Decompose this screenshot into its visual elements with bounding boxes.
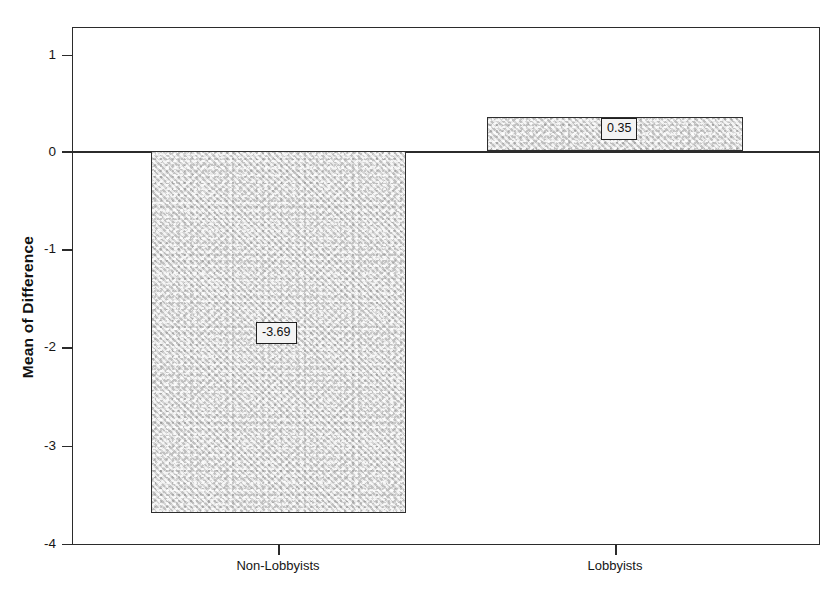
y-tick-mark	[62, 151, 73, 153]
y-tick-label: -2	[0, 339, 56, 354]
y-tick-mark	[62, 249, 73, 251]
x-tick-mark	[615, 545, 617, 555]
bar-chart: Mean of Difference 1 0 -1 -2 -3 -4 -3.69…	[0, 0, 839, 592]
bar-value-label-lobbyists: 0.35	[601, 118, 637, 140]
x-tick-mark	[278, 545, 280, 555]
y-tick-label: 0	[0, 144, 56, 159]
y-tick-mark	[62, 544, 73, 546]
y-tick-mark	[62, 446, 73, 448]
x-tick-label-non-lobbyists: Non-Lobbyists	[158, 558, 398, 573]
y-tick-label: -4	[0, 536, 56, 551]
y-tick-label: -3	[0, 438, 56, 453]
bar-value-label-non-lobbyists: -3.69	[256, 322, 297, 344]
y-axis-title: Mean of Difference	[19, 197, 37, 417]
x-tick-label-lobbyists: Lobbyists	[495, 558, 735, 573]
y-tick-mark	[62, 347, 73, 349]
y-tick-label: 1	[0, 47, 56, 62]
y-tick-label: -1	[0, 241, 56, 256]
y-tick-mark	[62, 55, 73, 57]
